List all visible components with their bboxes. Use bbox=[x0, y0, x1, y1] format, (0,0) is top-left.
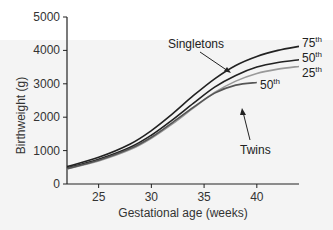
axes: 01000200030004000500025303540Gestational… bbox=[14, 10, 299, 220]
y-tick-label: 2000 bbox=[33, 110, 60, 124]
series-line-twins-50th bbox=[67, 82, 257, 168]
x-tick-label: 25 bbox=[92, 190, 106, 204]
y-tick-label: 3000 bbox=[33, 77, 60, 91]
x-tick-label: 35 bbox=[197, 190, 211, 204]
twins-label: Twins bbox=[240, 143, 271, 157]
twins-arrowhead bbox=[240, 108, 246, 115]
p50-label: 50th bbox=[302, 50, 322, 65]
p25-label: 25th bbox=[302, 65, 322, 80]
x-axis-title: Gestational age (weeks) bbox=[118, 206, 247, 220]
twins-p50-label: 50th bbox=[260, 77, 280, 92]
birthweight-chart: 01000200030004000500025303540Gestational… bbox=[0, 0, 333, 230]
y-axis-title: Birthweight (g) bbox=[14, 77, 28, 154]
y-tick-label: 5000 bbox=[33, 10, 60, 24]
y-tick-label: 1000 bbox=[33, 144, 60, 158]
singletons-label: Singletons bbox=[168, 37, 224, 51]
annotations: Singletons Twins 75th 50th 25th 50th bbox=[168, 35, 322, 157]
x-tick-label: 30 bbox=[145, 190, 159, 204]
y-tick-label: 4000 bbox=[33, 43, 60, 57]
x-tick-label: 40 bbox=[250, 190, 264, 204]
twins-arrow bbox=[243, 112, 250, 140]
y-tick-label: 0 bbox=[53, 177, 60, 191]
p75-label: 75th bbox=[302, 35, 322, 50]
singletons-arrow bbox=[200, 52, 228, 71]
